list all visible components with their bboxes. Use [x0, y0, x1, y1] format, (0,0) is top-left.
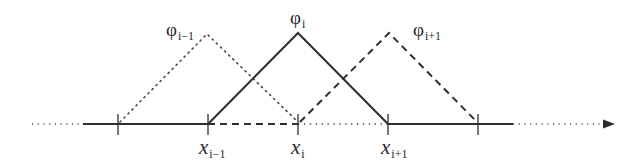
phi-i-minus-1-curve — [120, 34, 298, 122]
label-phi-i-minus-1: φi−1 — [166, 20, 194, 39]
subscript: i — [302, 17, 305, 31]
right-arrow-icon — [603, 120, 615, 129]
label-phi-i: φi — [290, 8, 305, 27]
label-x-i-minus-1: xi−1 — [199, 137, 225, 158]
phi-symbol: φ — [166, 19, 177, 40]
x-symbol: x — [291, 135, 300, 159]
phi-i-plus-1-curve — [300, 33, 477, 122]
subscript: i−1 — [209, 147, 225, 161]
x-symbol: x — [199, 135, 208, 159]
phi-symbol: φ — [413, 19, 424, 40]
subscript: i+1 — [391, 147, 407, 161]
subscript: i — [301, 147, 304, 161]
label-x-i: xi — [291, 137, 305, 158]
label-phi-i-plus-1: φi+1 — [413, 20, 441, 39]
hat-functions-diagram — [0, 0, 623, 168]
subscript: i+1 — [425, 29, 441, 43]
x-symbol: x — [381, 135, 390, 159]
subscript: i−1 — [178, 29, 194, 43]
label-x-i-plus-1: xi+1 — [381, 137, 407, 158]
phi-symbol: φ — [290, 7, 301, 28]
phi-i-curve — [208, 33, 388, 124]
